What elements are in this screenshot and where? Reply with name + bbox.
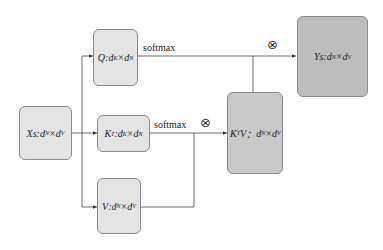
softmax-label-top: softmax [143, 42, 175, 53]
otimes-icon-top: ⊗ [267, 38, 278, 51]
ktv-node: KTV： dN×dV [227, 92, 283, 174]
v-node: V:dN×dV [97, 178, 141, 234]
q-node: Q:dK×dN [93, 29, 138, 86]
xs-input-node: Xs:dN×dV [19, 106, 72, 160]
ys-output-node: Ys:dN×dV [297, 16, 368, 97]
otimes-icon-mid: ⊗ [200, 116, 211, 129]
kt-node: KT:dK×dN [97, 115, 150, 152]
softmax-label-mid: softmax [154, 119, 186, 130]
